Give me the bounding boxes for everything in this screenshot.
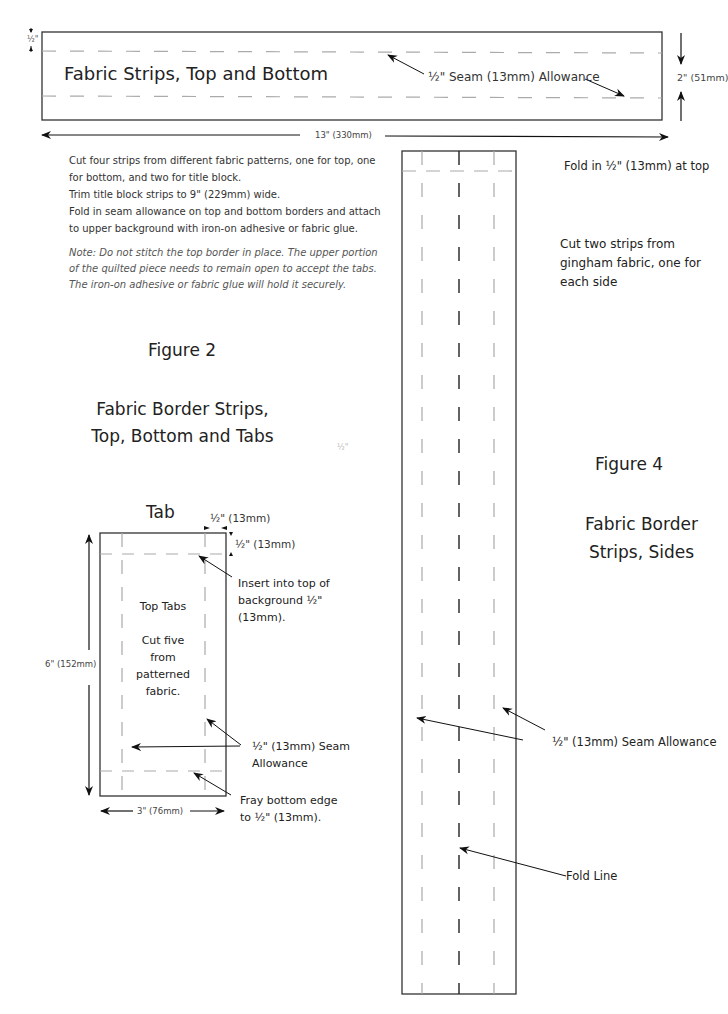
instruction-2: Trim title block strips to 9" (229mm) wi…	[69, 186, 389, 203]
stray-half-inch-label: ½"	[337, 443, 348, 453]
strip-title: Fabric Strips, Top and Bottom	[64, 63, 328, 85]
figure-4-title: Fabric Border Strips, Sides	[560, 510, 723, 566]
figure-4-title-line-1: Fabric Border	[560, 510, 723, 538]
note: Note: Do not stitch the top border in pl…	[69, 245, 389, 293]
fold-line-label: Fold Line	[566, 870, 617, 884]
width-label: 13" (330mm)	[315, 130, 372, 140]
tab-inner-title: Top Tabs	[100, 598, 226, 615]
tab-top-margin-label: ½" (13mm)	[235, 538, 295, 551]
tab-inner-text: Top Tabs Cut five from patterned fabric.	[100, 598, 226, 700]
fold-top-label: Fold in ½" (13mm) at top	[564, 160, 709, 174]
instruction-3: Fold in seam allowance on top and bottom…	[69, 203, 389, 237]
figure-4-number: Figure 4	[595, 454, 663, 474]
side-strip-diagram	[402, 151, 566, 994]
cut-strips-label: Cut two strips from gingham fabric, one …	[560, 235, 701, 292]
figure-2-title-line-2: Top, Bottom and Tabs	[60, 423, 305, 450]
tab-side-margin-label: ½" (13mm)	[210, 512, 270, 525]
tab-title: Tab	[146, 502, 175, 522]
tab-height-label: 6" (152mm)	[45, 659, 96, 669]
instructions: Cut four strips from different fabric pa…	[69, 152, 389, 293]
tab-insert-label: Insert into top of background ½" (13mm).	[238, 575, 330, 626]
seam-allowance-label: ½" Seam (13mm) Allowance	[428, 70, 600, 84]
tab-seam-label: ½" (13mm) Seam Allowance	[252, 738, 350, 772]
height-label: 2" (51mm)	[677, 72, 728, 83]
figure-2-title: Fabric Border Strips, Top, Bottom and Ta…	[60, 396, 305, 450]
figure-4-title-line-2: Strips, Sides	[560, 538, 723, 566]
figure-2-title-line-1: Fabric Border Strips,	[60, 396, 305, 423]
tab-fray-label: Fray bottom edge to ½" (13mm).	[240, 792, 338, 826]
side-seam-label: ½" (13mm) Seam Allowance	[552, 736, 716, 750]
tab-width-label: 3" (76mm)	[137, 806, 183, 816]
half-inch-label: ½"	[27, 35, 38, 45]
figure-2-number: Figure 2	[148, 340, 216, 360]
instruction-1: Cut four strips from different fabric pa…	[69, 152, 389, 186]
